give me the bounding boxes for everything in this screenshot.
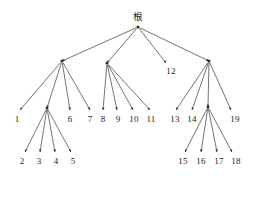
tree-node-label-n9: 9 (116, 115, 121, 124)
tree-node-label-n11: 11 (146, 115, 155, 124)
tree-edge-root-to-c (140, 28, 209, 61)
tree-node-label-n2: 2 (20, 157, 25, 166)
tree-node-label-n15: 15 (178, 157, 187, 166)
tree-node-label-n18: 18 (231, 157, 240, 166)
tree-node-dot-b[interactable] (106, 62, 109, 65)
tree-edge-b-to-n9 (107, 65, 117, 110)
tree-edge-root-to-b (107, 29, 137, 63)
tree-edge-c-to-n19 (210, 63, 231, 110)
tree-diagram: 根12167234589101113141915161718 (0, 0, 254, 199)
tree-node-dot-root[interactable] (137, 26, 140, 29)
tree-node-dot-d[interactable] (46, 107, 49, 110)
edges-group (20, 28, 232, 152)
tree-edge-d-to-n2 (25, 110, 46, 152)
tree-edge-a-to-n6 (62, 63, 70, 110)
tree-node-dot-a[interactable] (61, 60, 64, 63)
tree-node-label-n4: 4 (54, 157, 59, 166)
tree-node-label-n14: 14 (187, 115, 196, 124)
tree-edge-a-to-n1 (20, 63, 61, 110)
tree-node-label-n5: 5 (71, 157, 76, 166)
tree-edge-c-to-e (208, 63, 209, 107)
node-dots-group (46, 26, 211, 110)
tree-node-label-n7: 7 (88, 115, 93, 124)
tree-node-label-n1: 1 (15, 115, 20, 124)
tree-edge-d-to-n3 (40, 110, 47, 152)
tree-node-label-n17: 17 (214, 157, 223, 166)
tree-node-label-root: 根 (133, 12, 143, 22)
tree-node-dot-c[interactable] (208, 60, 211, 63)
tree-node-label-n8: 8 (101, 115, 106, 124)
tree-node-dot-e[interactable] (207, 106, 210, 109)
tree-edge-a-to-n7 (63, 63, 90, 110)
tree-edges-canvas (0, 0, 254, 199)
tree-node-label-n13: 13 (170, 115, 179, 124)
tree-edge-e-to-n16 (201, 109, 208, 152)
tree-node-label-n10: 10 (129, 115, 138, 124)
tree-node-label-n6: 6 (68, 115, 73, 124)
tree-edge-root-to-a (62, 28, 136, 61)
tree-node-label-n3: 3 (37, 157, 42, 166)
tree-node-label-n16: 16 (196, 157, 205, 166)
tree-edge-c-to-n14 (192, 63, 208, 110)
tree-node-label-n19: 19 (230, 115, 239, 124)
tree-edge-c-to-n13 (176, 63, 208, 110)
tree-node-label-n12: 12 (166, 67, 175, 76)
tree-edge-b-to-n8 (103, 65, 107, 110)
